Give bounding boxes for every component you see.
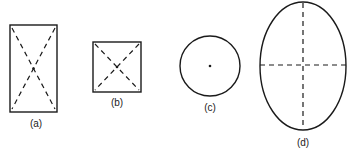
center-dot-b [116,66,119,69]
figure-a: (a) [10,25,57,129]
label-a: (a) [30,118,42,129]
label-c: (c) [204,102,216,113]
figure-c: (c) [180,36,240,113]
figure-b: (b) [93,42,141,108]
shapes-diagram: (a) (b) (c) (d) [0,0,354,154]
center-dot-a [32,67,35,70]
label-d: (d) [297,137,309,148]
figure-d: (d) [260,2,346,148]
center-dot-c [209,65,212,68]
label-b: (b) [111,97,123,108]
